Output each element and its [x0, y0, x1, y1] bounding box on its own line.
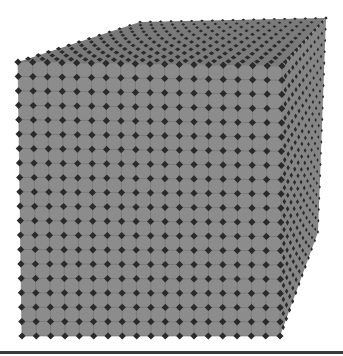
front-face — [14, 58, 285, 339]
right-face — [278, 16, 327, 339]
crystal-lattice-cube — [0, 0, 343, 356]
baseline-rule — [0, 351, 343, 354]
